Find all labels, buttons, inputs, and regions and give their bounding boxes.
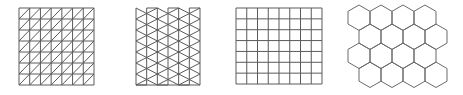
equilateral-triangle-grid <box>136 8 200 85</box>
grid-line <box>136 36 147 42</box>
grid-line <box>189 19 200 25</box>
grid-line <box>157 52 168 58</box>
grid-line <box>19 19 30 30</box>
grid-line <box>157 58 168 64</box>
grid-line <box>147 25 158 31</box>
grid-line <box>179 63 190 69</box>
grid-line <box>136 63 147 69</box>
right-triangle-grid <box>19 8 94 85</box>
grid-line <box>136 41 147 47</box>
grid-line <box>189 25 200 31</box>
grid-line <box>157 8 168 14</box>
hexagon-cell <box>392 5 414 30</box>
grid-line <box>168 69 179 75</box>
grid-line <box>179 36 190 42</box>
hexagon-cell <box>348 5 370 30</box>
grid-line <box>83 63 94 74</box>
grid-line <box>157 69 168 75</box>
grid-line <box>40 8 51 19</box>
grid-line <box>157 14 168 20</box>
grid-line <box>157 47 168 53</box>
grid-line <box>83 19 94 30</box>
grid-line <box>40 19 51 30</box>
grid-line <box>30 63 41 74</box>
hexagon-cell <box>403 62 425 87</box>
grid-line <box>168 41 179 47</box>
grid-line <box>147 58 158 64</box>
grid-line <box>83 30 94 41</box>
grid-line <box>168 80 179 86</box>
grid-line <box>73 8 84 19</box>
grid-line <box>73 52 84 63</box>
hexagon-cell <box>370 5 392 30</box>
grid-line <box>157 80 168 86</box>
grid-line <box>179 41 190 47</box>
grid-line <box>147 14 158 20</box>
grid-line <box>147 41 158 47</box>
grid-line <box>19 52 30 63</box>
grid-line <box>30 74 41 85</box>
grid-line <box>147 30 158 36</box>
grid-line <box>83 8 94 19</box>
grid-line <box>189 52 200 58</box>
grid-line <box>168 52 179 58</box>
grid-line <box>189 30 200 36</box>
grid-line <box>179 14 190 20</box>
grid-line <box>168 8 179 14</box>
grid-line <box>136 47 147 53</box>
grid-line <box>136 52 147 58</box>
grid-line <box>168 25 179 31</box>
grid-line <box>136 30 147 36</box>
grid-line <box>83 52 94 63</box>
grid-line <box>189 14 200 20</box>
grid-line <box>179 47 190 53</box>
grid-line <box>136 8 147 14</box>
grid-line <box>147 47 158 53</box>
grid-line <box>189 69 200 75</box>
grid-line <box>157 19 168 25</box>
grid-line <box>189 36 200 42</box>
grid-line <box>189 41 200 47</box>
grid-line <box>147 36 158 42</box>
grid-line <box>51 63 62 74</box>
grid-line <box>157 74 168 80</box>
hexagon-cell <box>392 43 414 68</box>
grid-line <box>136 69 147 75</box>
grid-line <box>51 30 62 41</box>
grid-line <box>40 52 51 63</box>
grid-line <box>168 47 179 53</box>
grid-line <box>179 8 190 14</box>
grid-line <box>136 58 147 64</box>
grid-line <box>73 74 84 85</box>
grid-line <box>157 41 168 47</box>
grid-line <box>179 69 190 75</box>
grid-line <box>136 14 147 20</box>
hexagon-cell <box>425 62 447 87</box>
grid-line <box>83 74 94 85</box>
grid-line <box>136 80 147 86</box>
grid-line <box>30 52 41 63</box>
grid-line <box>168 36 179 42</box>
grid-line <box>51 8 62 19</box>
grid-line <box>62 8 73 19</box>
grid-line <box>19 74 30 85</box>
grid-line <box>189 74 200 80</box>
grid-line <box>168 74 179 80</box>
grid-line <box>147 63 158 69</box>
hexagon-cell <box>414 43 436 68</box>
grid-line <box>179 25 190 31</box>
tessellation-diagram <box>0 0 463 95</box>
grid-line <box>40 41 51 52</box>
grid-line <box>147 74 158 80</box>
grid-line <box>62 74 73 85</box>
grid-line <box>19 41 30 52</box>
grid-line <box>51 41 62 52</box>
grid-line <box>73 41 84 52</box>
grid-line <box>147 8 158 14</box>
grid-line <box>179 19 190 25</box>
grid-line <box>189 8 200 14</box>
grid-line <box>19 63 30 74</box>
hexagon-cell <box>414 5 436 30</box>
grid-line <box>157 63 168 69</box>
grid-line <box>168 14 179 20</box>
